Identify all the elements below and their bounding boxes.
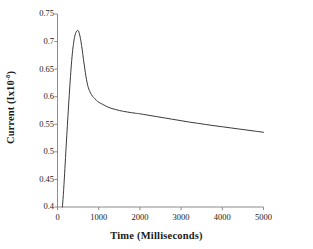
x-axis-title: Time (Milliseconds) bbox=[0, 230, 313, 241]
y-tick-marks bbox=[54, 14, 57, 207]
plot-area bbox=[0, 0, 313, 249]
x-tick-marks bbox=[58, 207, 264, 210]
chart-figure: Current (Ix10-8) 0.40.450.50.550.60.650.… bbox=[0, 0, 313, 249]
axis-lines bbox=[58, 14, 264, 207]
data-series-group bbox=[62, 30, 263, 207]
current-decay-curve bbox=[62, 30, 263, 207]
